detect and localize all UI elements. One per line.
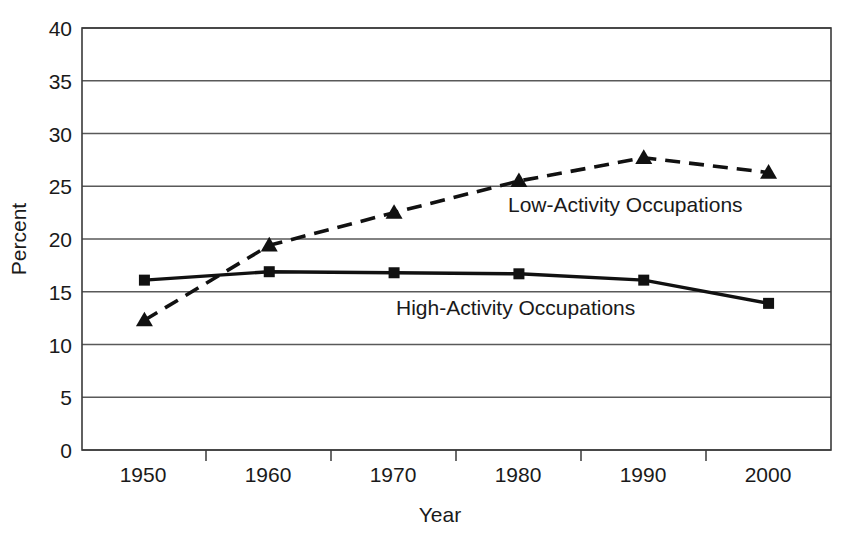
y-tick-label: 40 bbox=[49, 17, 72, 40]
x-tick-label: 1990 bbox=[620, 463, 667, 486]
y-tick-label: 10 bbox=[49, 334, 72, 357]
y-axis-tick-labels: 40 35 30 25 20 15 10 5 0 bbox=[49, 17, 72, 462]
chart-container: 40 35 30 25 20 15 10 5 0 1950 1960 1970 … bbox=[0, 0, 846, 536]
annotation-high-activity: High-Activity Occupations bbox=[396, 296, 635, 319]
y-axis-title: Percent bbox=[7, 203, 30, 276]
y-tick-label: 5 bbox=[60, 386, 72, 409]
line-chart: 40 35 30 25 20 15 10 5 0 1950 1960 1970 … bbox=[0, 0, 846, 536]
x-tick-label: 1980 bbox=[495, 463, 542, 486]
data-point-square bbox=[763, 298, 774, 309]
y-tick-label: 0 bbox=[60, 439, 72, 462]
x-tick-label: 1950 bbox=[120, 463, 167, 486]
x-tick-label: 1970 bbox=[370, 463, 417, 486]
data-point-square bbox=[389, 267, 400, 278]
y-tick-label: 35 bbox=[49, 70, 72, 93]
annotation-low-activity: Low-Activity Occupations bbox=[508, 193, 743, 216]
data-point-square bbox=[264, 266, 275, 277]
x-axis-title: Year bbox=[419, 503, 461, 526]
x-tick-label: 2000 bbox=[745, 463, 792, 486]
y-tick-label: 20 bbox=[49, 228, 72, 251]
y-tick-label: 15 bbox=[49, 281, 72, 304]
y-tick-label: 30 bbox=[49, 123, 72, 146]
y-tick-label: 25 bbox=[49, 175, 72, 198]
x-axis-tick-labels: 1950 1960 1970 1980 1990 2000 bbox=[120, 463, 792, 486]
x-tick-label: 1960 bbox=[245, 463, 292, 486]
data-point-square bbox=[513, 268, 524, 279]
data-point-square bbox=[139, 275, 150, 286]
data-point-square bbox=[638, 275, 649, 286]
x-axis-ticks bbox=[206, 450, 706, 461]
